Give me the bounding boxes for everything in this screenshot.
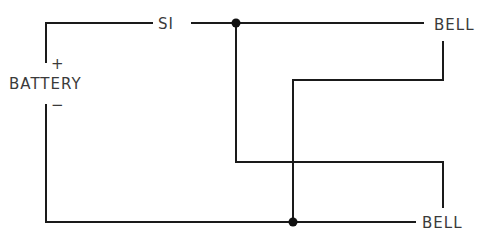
circuit-diagram: SI + BATTERY − BELL BELL [0,0,500,238]
wire-branch-to-bell-bottom [236,23,443,207]
wire-battery-negative [46,105,415,222]
battery-negative-sign: − [51,96,64,114]
switch-label: SI [158,15,174,33]
bell-bottom-label: BELL [422,214,462,232]
junction-dot-top [232,19,241,28]
bell-top-label: BELL [434,16,474,34]
battery-label: BATTERY [9,75,82,93]
junction-dot-bottom [289,218,298,227]
battery-positive-sign: + [51,55,64,73]
wire-bell-top-return [293,42,443,222]
